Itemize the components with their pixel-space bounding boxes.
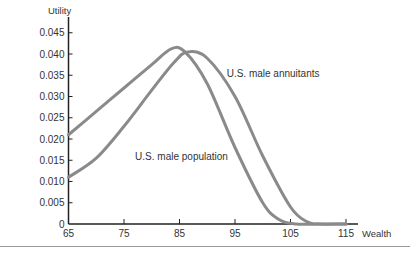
annuitants-label: U.S. male annuitants <box>227 68 320 79</box>
x-tick-label: 85 <box>174 228 186 239</box>
x-tick-label: 115 <box>338 228 354 239</box>
y-axis: 00.0050.0100.0150.0200.0250.0300.0350.04… <box>39 17 72 230</box>
x-tick-label: 65 <box>63 228 75 239</box>
y-tick-label: 0.010 <box>39 176 64 187</box>
x-axis-title: Wealth <box>362 228 391 239</box>
y-tick-label: 0.040 <box>39 49 64 60</box>
y-tick-label: 0.025 <box>39 112 64 123</box>
x-tick-label: 75 <box>118 228 130 239</box>
y-tick-label: 0.015 <box>39 155 64 166</box>
x-axis: 65758595105115 <box>63 219 358 239</box>
y-tick-label: 0.020 <box>39 134 64 145</box>
y-tick-label: 0.005 <box>39 197 64 208</box>
y-tick-label: 0.030 <box>39 91 64 102</box>
y-axis-title: Utility <box>48 5 71 16</box>
population-label: U.S. male population <box>135 151 228 162</box>
x-tick-label: 105 <box>282 228 299 239</box>
utility-chart: 00.0050.0100.0150.0200.0250.0300.0350.04… <box>0 0 410 256</box>
y-tick-label: 0.045 <box>39 27 64 38</box>
x-tick-label: 95 <box>229 228 241 239</box>
y-tick-label: 0.035 <box>39 70 64 81</box>
